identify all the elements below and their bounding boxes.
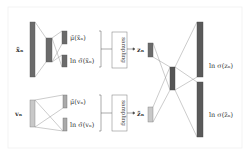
arrows bbox=[127, 48, 135, 114]
label-v: vₙ bbox=[14, 110, 23, 118]
label-mu-bottom: μ̄(vₙ) bbox=[70, 98, 86, 106]
latent-z-tilde-block bbox=[148, 107, 153, 122]
label-mu-top: μ̃(x̃ₙ) bbox=[70, 34, 86, 42]
hidden-layer-top bbox=[46, 38, 52, 62]
input-layer-v bbox=[30, 100, 35, 127]
mu-top-block bbox=[62, 31, 67, 44]
label-output-top: ln σ(zₙ) bbox=[209, 62, 234, 70]
label-z: zₙ bbox=[137, 46, 145, 54]
bottom-encoder-edges bbox=[35, 95, 63, 131]
vae-diagram: x̃ₙ vₙ μ̃(x̃ₙ) ln σ̃(x̃ₙ) μ̄(vₙ) ln σ̄(v… bbox=[0, 0, 251, 154]
label-output-bottom: ln σ(z̃ₙ) bbox=[209, 111, 234, 119]
label-z-tilde: z̃ₙ bbox=[137, 110, 145, 118]
decoder-output-bottom bbox=[197, 82, 203, 137]
label-x-tilde: x̃ₙ bbox=[16, 46, 24, 54]
sigma-top-block bbox=[62, 55, 67, 67]
sigma-bottom-block bbox=[63, 118, 67, 131]
brackets bbox=[99, 31, 112, 131]
label-sigma-bottom: ln σ̄(vₙ) bbox=[70, 121, 95, 129]
label-sigma-top: ln σ̃(x̃ₙ) bbox=[70, 57, 95, 65]
latent-z-block bbox=[148, 43, 153, 57]
sampling-label-top: sampling bbox=[120, 37, 127, 63]
input-layer-x bbox=[30, 22, 35, 77]
mu-bottom-block bbox=[63, 95, 67, 108]
decoder-hidden bbox=[170, 67, 175, 90]
decoder-output-top bbox=[197, 22, 203, 77]
sampling-label-bottom: sampling bbox=[120, 100, 127, 126]
